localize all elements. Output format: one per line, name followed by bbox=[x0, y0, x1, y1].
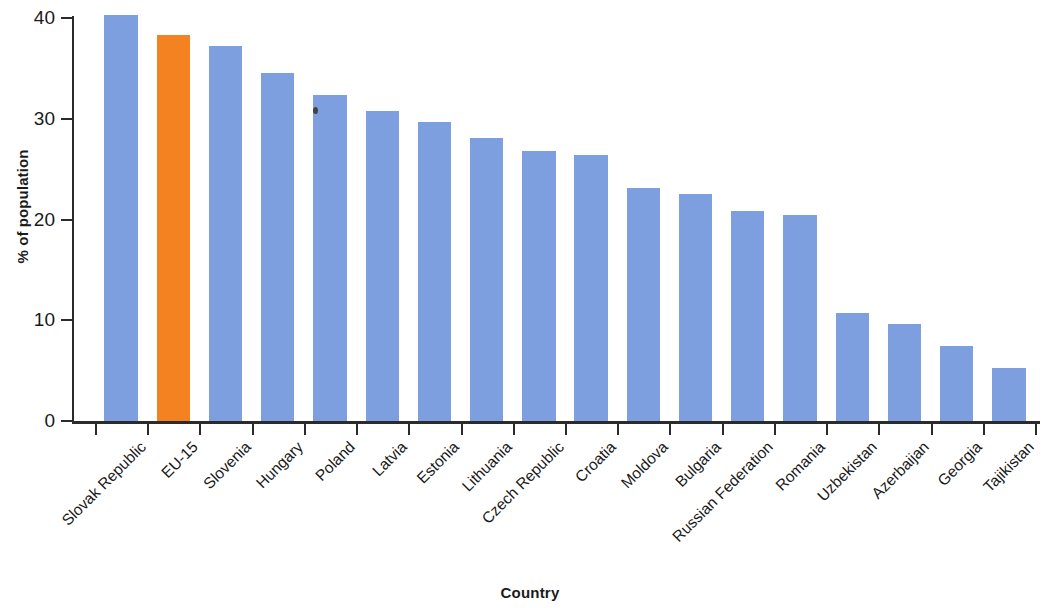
bar-azerbaijan bbox=[888, 324, 921, 421]
y-axis-tick bbox=[61, 118, 73, 120]
bar-czech-republic bbox=[522, 151, 555, 421]
y-axis-tick-label: 20 bbox=[13, 209, 55, 231]
bar-estonia bbox=[418, 122, 451, 421]
bar-slovenia bbox=[209, 46, 242, 421]
x-axis-tick bbox=[304, 424, 306, 435]
x-axis-tick bbox=[461, 424, 463, 435]
x-axis-tick bbox=[826, 424, 828, 435]
x-axis-label-georgia: Georgia bbox=[934, 438, 986, 490]
bar-lithuania bbox=[470, 138, 503, 421]
bar-russian-federation bbox=[731, 211, 764, 421]
x-axis-tick bbox=[95, 424, 97, 435]
x-axis-tick bbox=[722, 424, 724, 435]
x-axis-tick bbox=[1035, 424, 1037, 435]
x-axis-tick bbox=[931, 424, 933, 435]
x-axis-label-bulgaria: Bulgaria bbox=[671, 438, 724, 491]
x-axis-tick bbox=[199, 424, 201, 435]
x-axis-label-estonia: Estonia bbox=[414, 438, 463, 487]
x-axis-label-slovenia: Slovenia bbox=[199, 438, 254, 493]
x-axis-label-slovak-republic: Slovak Republic bbox=[59, 438, 150, 529]
y-axis-tick-label: 0 bbox=[13, 410, 55, 432]
x-axis-tick bbox=[513, 424, 515, 435]
x-axis-tick bbox=[878, 424, 880, 435]
bar-chart-figure: % of population 010203040 Slovak Republi… bbox=[0, 0, 1046, 608]
x-axis-tick bbox=[617, 424, 619, 435]
y-axis-tick bbox=[61, 17, 73, 19]
x-axis-label-latvia: Latvia bbox=[369, 438, 411, 480]
y-axis-tick bbox=[61, 219, 73, 221]
x-axis-label-eu-15: EU-15 bbox=[158, 438, 202, 482]
x-axis-label-poland: Poland bbox=[312, 438, 359, 485]
bar-uzbekistan bbox=[836, 313, 869, 421]
bar-romania bbox=[783, 215, 816, 421]
x-axis-tick bbox=[147, 424, 149, 435]
x-axis-tick bbox=[565, 424, 567, 435]
x-axis-label-moldova: Moldova bbox=[618, 438, 672, 492]
x-axis-line bbox=[72, 421, 1040, 424]
bar-croatia bbox=[574, 155, 607, 421]
bar-tajikistan bbox=[992, 368, 1025, 421]
x-axis-label-hungary: Hungary bbox=[252, 438, 306, 492]
x-axis-tick bbox=[774, 424, 776, 435]
y-axis-tick-label: 10 bbox=[13, 309, 55, 331]
y-axis-tick-label: 30 bbox=[13, 108, 55, 130]
bar-poland bbox=[313, 95, 346, 421]
scan-speck-artifact bbox=[313, 107, 318, 114]
x-axis-tick bbox=[408, 424, 410, 435]
bar-hungary bbox=[261, 73, 294, 421]
y-axis-tick bbox=[61, 319, 73, 321]
x-axis-label-tajikistan: Tajikistan bbox=[980, 438, 1038, 496]
x-axis-tick bbox=[983, 424, 985, 435]
x-axis-label-russian-federation: Russian Federation bbox=[669, 438, 777, 546]
x-axis-tick bbox=[356, 424, 358, 435]
y-axis-tick-label: 40 bbox=[13, 7, 55, 29]
x-axis-tick bbox=[669, 424, 671, 435]
x-axis-title-text: Country bbox=[501, 584, 560, 601]
bar-latvia bbox=[366, 111, 399, 421]
bar-moldova bbox=[627, 188, 660, 421]
bar-eu-15 bbox=[157, 35, 190, 421]
bar-slovak-republic bbox=[104, 15, 137, 421]
bar-georgia bbox=[940, 346, 973, 421]
x-axis-title: Country bbox=[0, 584, 1046, 601]
x-axis-tick bbox=[252, 424, 254, 435]
x-axis-label-croatia: Croatia bbox=[572, 438, 620, 486]
bar-bulgaria bbox=[679, 194, 712, 421]
